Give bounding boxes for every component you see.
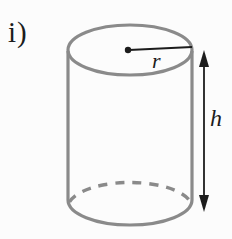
height-arrowhead-down-icon	[199, 195, 209, 212]
center-dot	[125, 47, 131, 53]
radius-annotation: r	[125, 47, 192, 73]
radius-label: r	[152, 48, 161, 73]
cylinder-shape	[68, 25, 192, 225]
height-annotation: h	[199, 50, 222, 212]
cylinder-diagram: r h	[0, 0, 232, 239]
cylinder-bottom-hidden-arc	[70, 182, 191, 202]
cylinder-bottom-front-arc	[68, 200, 192, 225]
height-arrowhead-up-icon	[199, 50, 209, 67]
height-label: h	[210, 105, 222, 131]
figure-canvas: { "figure": { "item_label": "i)", "shape…	[0, 0, 232, 239]
